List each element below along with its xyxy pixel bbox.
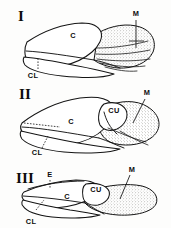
figure-2-label-cuneus: CU xyxy=(108,106,119,115)
figure-3-label-cuneus: CU xyxy=(90,185,101,194)
figure-2-label-clavus: CL xyxy=(32,148,43,157)
figure-3-label-clavus: CL xyxy=(26,217,37,226)
figure-1-label-clavus: CL xyxy=(28,71,39,80)
figure-2-numeral: II xyxy=(19,86,31,102)
figure-2-label-membrane: M xyxy=(144,88,151,97)
wing-diagram-plate: I C CL M II xyxy=(0,0,171,228)
figure-3-label-corium: C xyxy=(64,192,70,201)
figure-1-membrane-region xyxy=(94,25,154,68)
figure-1-numeral: I xyxy=(18,8,24,24)
figure-1-label-membrane: M xyxy=(133,9,140,18)
plate-canvas: I C CL M II xyxy=(0,0,171,228)
figure-1-label-corium: C xyxy=(70,31,76,40)
figure-3-label-membrane: M xyxy=(129,165,136,174)
figure-2-label-corium: C xyxy=(68,117,74,126)
figure-3-label-embolium: E xyxy=(47,170,52,179)
figure-3-numeral: III xyxy=(16,170,34,186)
